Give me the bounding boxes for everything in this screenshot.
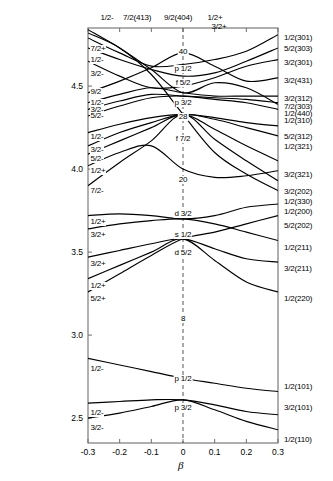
left-level-label: 5/2- [90, 112, 104, 120]
center-shell-label: p 1/2 [174, 65, 193, 73]
center-shell-label: s 1/2 [174, 231, 192, 239]
y-tick-label: 2.5 [71, 414, 83, 423]
top-level-label: 7/2(413) [123, 14, 151, 22]
right-level-label: 1/2(220) [284, 295, 312, 303]
center-shell-label: p 3/2 [174, 404, 193, 412]
center-shell-label: 8 [180, 315, 186, 323]
center-shell-label: f 7/2 [175, 135, 192, 143]
top-level-label: 9/2(404) [164, 14, 192, 22]
left-level-label: 5/2- [90, 155, 104, 163]
right-level-label: 1/2(101) [284, 383, 312, 391]
y-tick-label: 4.0 [71, 165, 83, 174]
left-level-label: 1/2- [90, 133, 104, 141]
center-shell-label: 28 [178, 113, 189, 121]
x-axis-title: β [178, 459, 183, 471]
left-level-label: 1/2- [90, 56, 104, 64]
center-shell-label: 40 [178, 48, 189, 56]
y-tick-label: 3.5 [71, 248, 83, 257]
x-tick-label: 0.1 [209, 448, 221, 457]
x-tick-label: 0.2 [240, 448, 252, 457]
left-level-label: 9/2 [90, 88, 102, 96]
x-tick-label: -0.3 [81, 448, 96, 457]
left-level-label: 1/2- [90, 409, 104, 417]
center-shell-label: p 1/2 [174, 375, 193, 383]
right-level-label: 3/2(431) [284, 77, 312, 85]
center-shell-label: p 3/2 [174, 99, 193, 107]
left-level-label: 3/2- [90, 146, 104, 154]
left-level-label: 3/2+ [90, 231, 106, 239]
right-level-label: 1/2(321) [284, 143, 312, 151]
right-level-label: 5/2(202) [284, 222, 312, 230]
left-level-label: 1/2+ [90, 218, 106, 226]
left-level-label: 3/2- [90, 70, 104, 78]
center-shell-label: f 5/2 [175, 79, 192, 87]
left-level-label: 1/2+ [90, 282, 106, 290]
left-level-label: 5/2+ [90, 295, 106, 303]
left-level-label: 7/2- [90, 187, 104, 195]
x-tick-label: -0.2 [112, 448, 127, 457]
left-level-label: 1/2- [90, 365, 104, 373]
right-level-label: 5/2(312) [284, 133, 312, 141]
left-level-label: 7/2+ [90, 45, 106, 53]
x-tick-label: -0.1 [144, 448, 159, 457]
right-level-label: 3/2(321) [284, 171, 312, 179]
x-tick-label: 0 [181, 448, 186, 457]
right-level-label: 5/2(303) [284, 45, 312, 53]
right-level-label: 1/2(330) [284, 198, 312, 206]
left-level-label: 3/2- [90, 424, 104, 432]
top-level-label: 1/2- [101, 14, 114, 22]
right-level-label: 1/2(110) [284, 436, 312, 444]
right-level-label: 1/2(200) [284, 208, 312, 216]
right-level-label: 3/2(101) [284, 404, 312, 412]
right-level-label: 3/2(211) [284, 265, 312, 273]
left-level-label: 1/2+ [90, 167, 106, 175]
right-level-label: 3/2(202) [284, 188, 312, 196]
right-level-label: 3/2(301) [284, 59, 312, 67]
center-shell-label: d 5/2 [174, 249, 193, 257]
x-tick-label: 0.3 [272, 448, 284, 457]
top-level-label: 3/2+ [212, 23, 227, 31]
y-tick-label: 3.0 [71, 331, 83, 340]
y-tick-label: 4.5 [71, 82, 83, 91]
center-shell-label: 20 [178, 176, 189, 184]
right-level-label: 1/2(301) [284, 34, 312, 42]
right-level-label: 1/2(310) [284, 117, 312, 125]
top-level-label: 1/2+ [208, 14, 223, 22]
center-shell-label: d 3/2 [174, 210, 193, 218]
left-level-label: 3/2+ [90, 260, 106, 268]
nilsson-diagram-figure: 4.54.03.53.02.5-0.3-0.2-0.100.10.20.37/2… [0, 0, 333, 481]
right-level-label: 1/2(211) [284, 244, 312, 252]
